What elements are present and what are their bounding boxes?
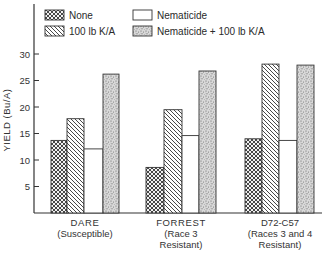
legend-label-nematicide-100lb-k: Nematicide + 100 lb K/A <box>157 26 265 37</box>
y-tick-label: 20 <box>19 102 30 113</box>
bar-forrest-100lb-k <box>164 110 182 213</box>
legend-swatch-nematicide <box>133 10 152 20</box>
category-line: (Susceptible) <box>57 228 112 239</box>
category-line: FORREST <box>156 217 206 228</box>
legend: None Nematicide 100 lb K/A Nematicide + … <box>45 10 265 37</box>
legend-label-none: None <box>69 10 93 21</box>
bar-dare-100lb-k <box>67 119 84 213</box>
bar-group-dare <box>51 74 119 213</box>
y-tick-label: 15 <box>19 128 30 139</box>
category-line: (Race 3 <box>164 228 197 239</box>
bar-forrest-none <box>146 167 164 213</box>
bar-forrest-nematicide <box>182 136 199 213</box>
category-label-d72-c57: D72-C57 (Races 3 and 4 Resistant) <box>248 217 312 250</box>
y-tick-label: 10 <box>19 155 30 166</box>
bar-forrest-nematicide-100lb-k <box>199 71 216 213</box>
y-ticks: 5 10 15 20 25 30 <box>19 49 39 193</box>
bar-group-d72-c57 <box>245 64 314 213</box>
bar-d72-nematicide-100lb-k <box>297 65 314 213</box>
bar-dare-nematicide-100lb-k <box>103 74 119 213</box>
category-line: Resistant) <box>160 239 203 250</box>
legend-swatch-100lb-k <box>45 26 64 36</box>
category-label-dare: DARE (Susceptible) <box>57 217 112 239</box>
y-axis-label: YIELD (Bu/A) <box>1 88 12 151</box>
y-tick-label: 5 <box>25 181 30 192</box>
legend-swatch-none <box>45 10 64 20</box>
bar-d72-none <box>245 139 262 213</box>
bar-d72-100lb-k <box>262 64 279 213</box>
legend-label-nematicide: Nematicide <box>157 10 207 21</box>
bar-d72-nematicide <box>279 140 297 213</box>
category-label-forrest: FORREST (Race 3 Resistant) <box>156 217 206 250</box>
bar-dare-nematicide <box>84 149 103 213</box>
yield-bar-chart: 5 10 15 20 25 30 YIELD (Bu/A) None Nemat… <box>0 0 327 253</box>
y-tick-label: 30 <box>19 49 30 60</box>
legend-swatch-nematicide-100lb-k <box>133 26 152 36</box>
bar-group-forrest <box>146 71 216 213</box>
category-line: Resistant) <box>259 239 302 250</box>
category-line: D72-C57 <box>261 217 299 228</box>
legend-label-100lb-k: 100 lb K/A <box>69 26 115 37</box>
bar-dare-none <box>51 140 67 213</box>
category-line: (Races 3 and 4 <box>248 228 312 239</box>
y-tick-label: 25 <box>19 75 30 86</box>
category-line: DARE <box>71 217 100 228</box>
